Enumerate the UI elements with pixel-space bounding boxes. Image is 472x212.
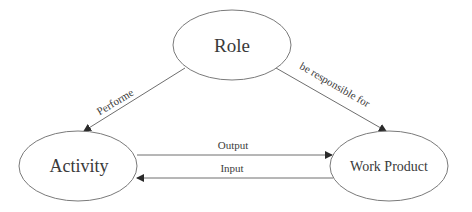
performe-label: Performe (94, 86, 135, 117)
node-role: Role (173, 10, 291, 80)
edge-performe: Performe (84, 68, 185, 131)
work-product-label: Work Product (350, 159, 428, 174)
edge-output: Output (137, 139, 332, 155)
edge-input: Input (137, 162, 333, 178)
role-activity-workproduct-diagram: Performe be responsible for Output Input… (0, 0, 472, 212)
node-activity: Activity (19, 131, 137, 201)
activity-label: Activity (50, 156, 109, 176)
output-label: Output (218, 139, 249, 151)
input-label: Input (220, 162, 243, 174)
role-label: Role (214, 35, 250, 56)
performe-arrow (84, 68, 185, 131)
node-work-product: Work Product (330, 131, 448, 201)
edge-be-responsible-for: be responsible for (276, 60, 386, 131)
